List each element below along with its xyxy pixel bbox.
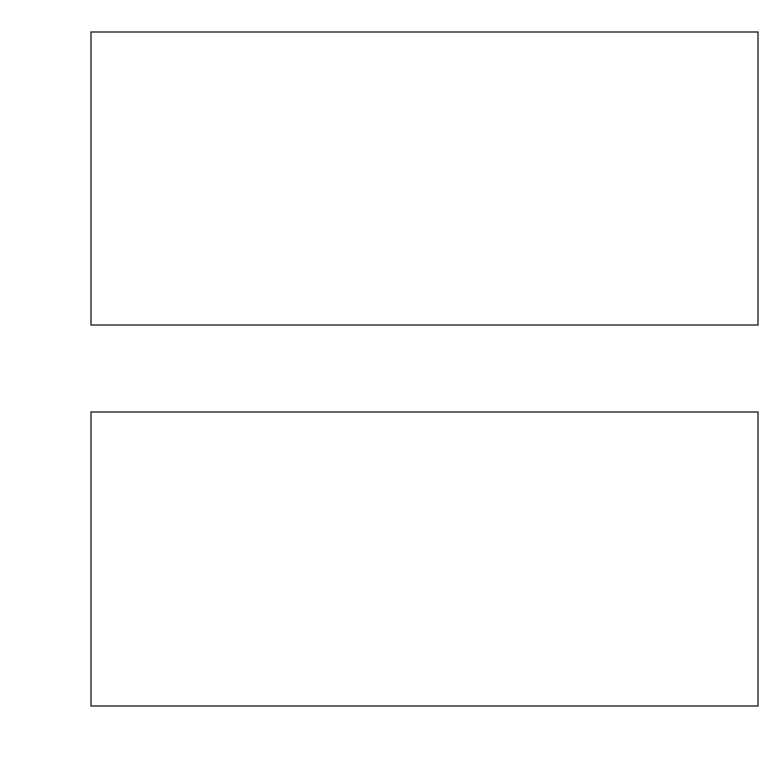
bottom-panel-plot — [91, 412, 758, 706]
bottom-panel-frame — [91, 412, 758, 706]
plot-canvas — [0, 0, 774, 772]
astronomy-figure — [0, 0, 774, 772]
clipped-header-text — [0, 0, 774, 11]
top-panel-plot — [91, 32, 758, 325]
top-panel-frame — [91, 32, 758, 325]
